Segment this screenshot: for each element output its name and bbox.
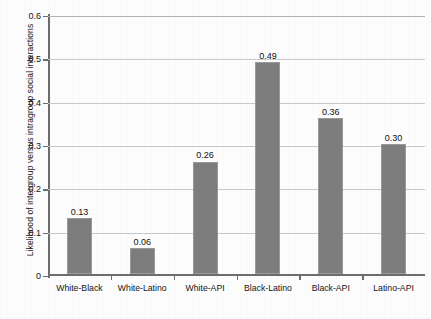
bar (193, 162, 218, 275)
bar-value-label: 0.26 (196, 150, 214, 160)
y-tick-label: 0.6 (28, 11, 41, 21)
gridline (48, 59, 425, 60)
y-tick-label: 0.3 (28, 141, 41, 151)
x-axis-label: White-API (186, 283, 225, 293)
bar (67, 218, 92, 274)
x-tick-mark (237, 276, 238, 280)
y-tick-mark (43, 103, 48, 104)
y-tick-mark (43, 146, 48, 147)
gridline (48, 103, 425, 104)
gridline (48, 233, 425, 234)
y-tick-label: 0 (36, 271, 41, 281)
y-tick-mark (43, 233, 48, 234)
bar-value-label: 0.49 (259, 51, 277, 61)
x-tick-mark (174, 276, 175, 280)
x-axis-label: Black-API (312, 283, 350, 293)
bar (318, 118, 343, 274)
y-tick-mark (43, 276, 48, 277)
bar (255, 62, 280, 274)
x-axis-label: Black-Latino (244, 283, 292, 293)
x-tick-mark (111, 276, 112, 280)
bar-value-label: 0.30 (385, 133, 403, 143)
plot-area: 00.10.20.30.40.50.6 0.130.060.260.490.36… (48, 16, 425, 276)
x-tick-mark (362, 276, 363, 280)
x-axis-label: White-Black (56, 283, 102, 293)
y-tick-mark (43, 189, 48, 190)
x-axis-label: Latino-API (373, 283, 414, 293)
gridline (48, 189, 425, 190)
bar (130, 248, 155, 274)
x-tick-mark (299, 276, 300, 280)
y-tick-mark (43, 16, 48, 17)
bar-value-label: 0.13 (71, 207, 89, 217)
x-axis-label: White-Latino (118, 283, 167, 293)
bar-chart-figure: Likelihood of intergroup versus intragro… (0, 0, 431, 319)
gridline (48, 16, 425, 17)
y-tick-label: 0.4 (28, 98, 41, 108)
y-tick-label: 0.5 (28, 54, 41, 64)
y-tick-label: 0.2 (28, 184, 41, 194)
bar-value-label: 0.06 (133, 237, 151, 247)
bar (381, 144, 406, 274)
gridline (48, 146, 425, 147)
y-tick-label: 0.1 (28, 228, 41, 238)
bar-value-label: 0.36 (322, 107, 340, 117)
y-tick-mark (43, 59, 48, 60)
